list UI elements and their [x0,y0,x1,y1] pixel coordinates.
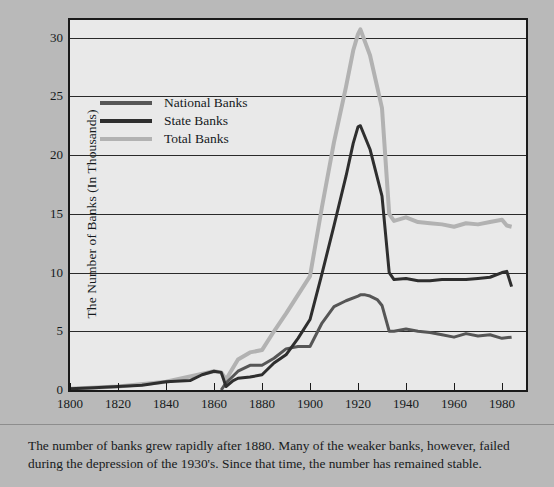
x-tick-label: 1920 [345,396,371,412]
x-tick [118,383,119,390]
legend-label: State Banks [164,114,228,128]
x-tick [406,383,407,390]
plot-area [70,20,526,390]
chart-legend: National BanksState BanksTotal Banks [100,94,248,147]
x-tick [70,383,71,390]
caption-divider [0,424,554,425]
x-tick [358,383,359,390]
x-tick [310,383,311,390]
legend-label: Total Banks [164,132,229,146]
x-tick-label: 1800 [57,396,83,412]
legend-item: State Banks [100,112,248,129]
plot-frame: 051015202530 180018201840186018801900192… [68,18,528,392]
y-tick-label: 10 [50,265,63,281]
y-tick-label: 25 [50,88,63,104]
legend-label: National Banks [164,96,248,110]
y-tick-label: 20 [50,147,63,163]
bank-count-chart-figure: 051015202530 180018201840186018801900192… [0,0,554,487]
x-tick [166,383,167,390]
x-tick [454,383,455,390]
x-tick [262,383,263,390]
legend-swatch-icon [100,101,152,105]
x-tick-label: 1900 [297,396,323,412]
x-tick-label: 1980 [489,396,515,412]
series-line-state-banks [70,126,512,389]
legend-swatch-icon [100,137,152,141]
legend-item: National Banks [100,94,248,111]
x-tick-label: 1840 [153,396,179,412]
x-tick-label: 1880 [249,396,275,412]
x-tick-label: 1940 [393,396,419,412]
x-tick [214,383,215,390]
legend-item: Total Banks [100,130,248,147]
series-lines [70,20,526,390]
figure-caption: The number of banks grew rapidly after 1… [28,437,528,473]
x-tick-label: 1820 [105,396,131,412]
x-tick-label: 1860 [201,396,227,412]
y-axis-title: The Number of Banks (In Thousands) [84,24,100,404]
y-tick-label: 5 [57,323,64,339]
y-tick-label: 30 [50,30,63,46]
legend-swatch-icon [100,119,152,123]
x-tick [502,383,503,390]
x-tick-label: 1960 [441,396,467,412]
y-tick-label: 15 [50,206,63,222]
